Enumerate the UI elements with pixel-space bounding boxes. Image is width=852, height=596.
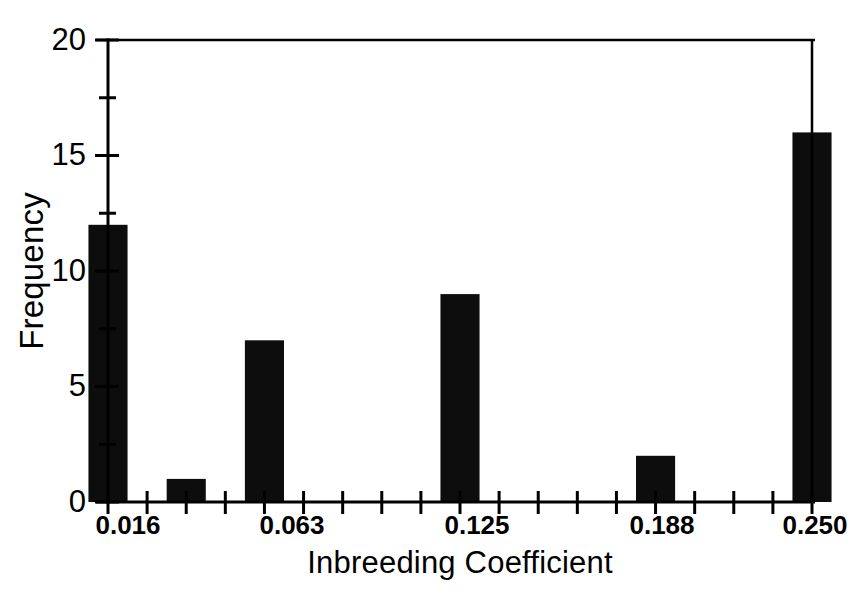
bar	[440, 294, 479, 502]
bar	[245, 340, 284, 502]
bars-group	[88, 132, 831, 502]
